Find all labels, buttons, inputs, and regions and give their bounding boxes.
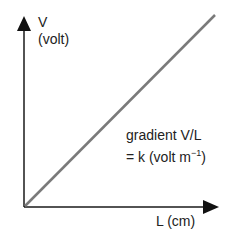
y-axis-symbol: V: [38, 14, 47, 30]
y-axis-unit: (volt): [38, 31, 69, 47]
gradient-equation-suffix: ): [201, 149, 206, 165]
gradient-equation: = k (volt m−1): [126, 145, 206, 165]
x-axis-label: L (cm): [156, 213, 195, 229]
x-axis-arrow-icon: [203, 200, 219, 214]
graph-canvas: [0, 0, 240, 239]
y-axis-arrow-icon: [17, 16, 31, 31]
gradient-label: gradient V/L: [126, 127, 202, 143]
gradient-equation-prefix: = k (volt m: [126, 149, 191, 165]
gradient-equation-exponent: −1: [191, 148, 201, 158]
